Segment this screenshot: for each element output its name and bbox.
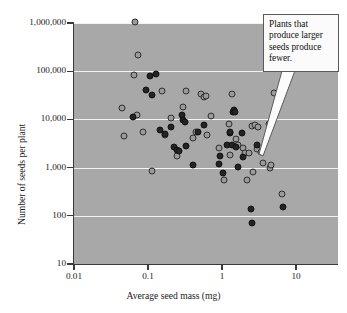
data-point <box>247 205 254 212</box>
data-point <box>201 121 208 128</box>
data-point <box>152 71 159 78</box>
data-point <box>243 176 250 183</box>
data-point <box>254 142 261 149</box>
data-point <box>249 169 256 176</box>
data-point <box>248 220 255 227</box>
data-point <box>240 154 247 161</box>
data-point <box>233 143 240 150</box>
chart-figure: 101001,00010,000100,0001,000,000 0.010.1… <box>0 0 347 313</box>
data-point <box>134 51 141 58</box>
y-axis-title: Number of seeds per plant <box>16 124 27 225</box>
data-point <box>226 121 233 128</box>
y-tick-label: 1,000 <box>45 163 66 172</box>
data-point <box>278 191 285 198</box>
y-tick <box>67 119 74 120</box>
x-tick-label: 10 <box>291 272 300 281</box>
data-point <box>254 123 261 130</box>
x-tick-label: 1 <box>220 272 225 281</box>
y-tick <box>67 22 74 23</box>
data-point <box>219 170 226 177</box>
data-point <box>265 121 272 128</box>
y-tick-label: 100 <box>52 211 66 220</box>
y-tick <box>67 215 74 216</box>
y-axis-line <box>73 23 74 265</box>
data-point <box>180 103 187 110</box>
x-tick-label: 0.1 <box>142 272 153 281</box>
data-point <box>234 163 241 170</box>
x-tick <box>221 264 222 270</box>
data-point <box>120 132 127 139</box>
data-point <box>271 89 278 96</box>
callout-line-1: Plants that <box>269 19 333 30</box>
callout-line-3: seeds produce <box>269 42 333 53</box>
data-point <box>149 167 156 174</box>
data-point <box>139 129 146 136</box>
data-point <box>176 147 183 154</box>
data-point <box>246 150 253 157</box>
y-tick-label: 10,000 <box>41 114 66 123</box>
data-point <box>202 92 209 99</box>
y-tick <box>67 71 74 72</box>
data-point <box>227 128 234 135</box>
data-point <box>189 135 196 142</box>
gridline <box>74 168 338 169</box>
data-point <box>148 92 155 99</box>
y-tick-label: 1,000,000 <box>29 18 66 27</box>
y-tick-label: 100,000 <box>36 66 66 75</box>
x-tick <box>295 264 296 270</box>
callout-line-2: produce larger <box>269 30 333 41</box>
data-point <box>204 132 211 139</box>
data-point <box>238 129 245 136</box>
data-point <box>227 152 234 159</box>
data-point <box>279 203 286 210</box>
data-point <box>168 115 175 122</box>
data-point <box>257 149 264 156</box>
x-tick <box>147 264 148 270</box>
data-point <box>189 161 196 168</box>
gridline <box>74 216 338 217</box>
data-point <box>183 88 190 95</box>
data-point <box>215 160 222 167</box>
x-axis-line <box>73 264 338 265</box>
data-point <box>207 112 214 119</box>
y-tick <box>67 167 74 168</box>
data-point <box>194 129 201 136</box>
data-point <box>216 144 223 151</box>
data-point <box>131 18 138 25</box>
data-point <box>228 90 235 97</box>
data-point <box>181 119 188 126</box>
gridline <box>74 119 338 120</box>
y-tick-label: 10 <box>57 259 66 268</box>
x-tick-label: 0.01 <box>66 272 82 281</box>
data-point <box>168 124 175 131</box>
data-point <box>162 131 169 138</box>
data-point <box>183 143 190 150</box>
data-point <box>267 161 274 168</box>
data-point <box>217 152 224 159</box>
data-point <box>129 114 136 121</box>
callout-line-4: fewer. <box>269 53 333 64</box>
x-tick <box>73 264 74 270</box>
callout-box: Plants that produce larger seeds produce… <box>263 14 339 72</box>
x-axis-title: Average seed mass (mg) <box>0 290 347 301</box>
data-point <box>220 176 227 183</box>
data-point <box>131 71 138 78</box>
data-point <box>159 88 166 95</box>
data-point <box>118 105 125 112</box>
data-point <box>231 108 238 115</box>
data-point <box>259 159 266 166</box>
